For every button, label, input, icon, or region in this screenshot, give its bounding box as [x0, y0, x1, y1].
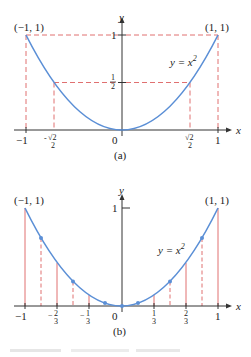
y-tick-1: 1 — [111, 29, 117, 41]
x-arrow-icon — [226, 304, 232, 309]
x-tick-1: 1 — [215, 310, 221, 322]
caption-b: (b) — [113, 325, 126, 338]
x-tick-neg-sqrt2-den: 2 — [51, 141, 55, 150]
x-tick-0: 0 — [112, 310, 118, 322]
svg-text:y = x2: y = x2 — [157, 242, 185, 256]
x-tick-23-den: 3 — [184, 317, 188, 326]
curve-label-a: y = x2 — [169, 54, 197, 68]
point-left-label: (−1, 1) — [14, 194, 44, 207]
point-left-label: (−1, 1) — [14, 21, 44, 34]
x-tick-neg13-minus: − — [80, 311, 85, 320]
point-right-label: (1, 1) — [205, 194, 229, 207]
x-tick-sqrt2-den: 2 — [188, 141, 192, 150]
x-arrow-icon — [226, 128, 232, 133]
figure-b: (−1, 1) (1, 1) y x 1 y = x2 −1 − 2 3 − 1… — [14, 184, 241, 338]
axes-b — [14, 200, 228, 312]
y-tick-half-num: 1 — [111, 73, 115, 82]
x-tick-neg23-minus: − — [48, 311, 53, 320]
x-axis-label: x — [235, 124, 241, 136]
axes-a — [14, 22, 228, 136]
y-tick-1: 1 — [112, 202, 118, 214]
x-tick-neg13-den: 3 — [86, 317, 90, 326]
x-tick-neg-sqrt2-minus: - — [44, 134, 47, 143]
figure-a: (−1, 1) (1, 1) y x 1 1 2 y = x2 −1 - √2 … — [14, 11, 241, 162]
x-tick-neg1: −1 — [16, 134, 28, 146]
point-right-label: (1, 1) — [205, 21, 229, 34]
faded-caption-text — [10, 349, 180, 352]
x-tick-neg23-den: 3 — [54, 317, 58, 326]
caption-a: (a) — [114, 149, 127, 162]
svg-text:y = x2: y = x2 — [169, 54, 197, 68]
x-axis-label: x — [235, 300, 241, 312]
curve-label-b: y = x2 — [157, 242, 185, 256]
x-tick-neg1: −1 — [15, 310, 27, 322]
figure-canvas: (−1, 1) (1, 1) y x 1 1 2 y = x2 −1 - √2 … — [0, 0, 251, 357]
x-tick-0: 0 — [112, 134, 118, 146]
y-axis-label: y — [118, 184, 124, 196]
y-tick-half-den: 2 — [111, 82, 115, 91]
x-tick-1: 1 — [215, 134, 221, 146]
x-tick-13-den: 3 — [152, 317, 156, 326]
y-axis-label: y — [118, 11, 124, 23]
